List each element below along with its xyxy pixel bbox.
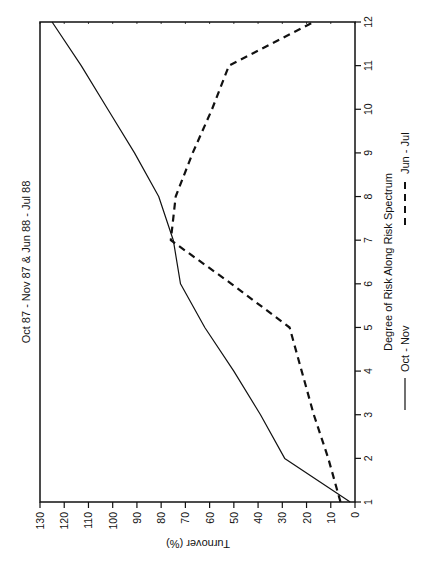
turnover-tick-label: 70	[179, 512, 191, 524]
turnover-tick-label: 50	[228, 512, 240, 524]
risk-tick-label: 4	[362, 368, 374, 374]
turnover-tick-label: 130	[34, 512, 46, 530]
risk-tick-label: 8	[362, 193, 374, 199]
turnover-tick-label: 80	[155, 512, 167, 524]
risk-axis-ticks: 123456789101112	[355, 16, 374, 505]
risk-tick-label: 2	[362, 455, 374, 461]
series-layer	[52, 22, 350, 502]
legend-label-jun-jul: Jun - Jul	[399, 132, 411, 174]
risk-tick-label: 7	[362, 237, 374, 243]
chart-canvas: 0102030405060708090100110120130 12345678…	[0, 0, 430, 563]
risk-tick-label: 10	[362, 103, 374, 115]
risk-tick-label: 3	[362, 412, 374, 418]
turnover-axis-ticks: 0102030405060708090100110120130	[34, 22, 361, 530]
turnover-tick-label: 60	[204, 512, 216, 524]
risk-tick-label: 9	[362, 150, 374, 156]
risk-tick-label: 5	[362, 324, 374, 330]
risk-tick-label: 11	[362, 60, 374, 71]
turnover-tick-label: 0	[349, 512, 361, 518]
risk-tick-label: 6	[362, 281, 374, 287]
chart-title: Oct 87 - Nov 87 & Jun 88 - Jul 88	[20, 181, 32, 344]
risk-axis-label: Degree of Risk Along Risk Spectrum	[382, 173, 394, 351]
turnover-tick-label: 100	[107, 512, 119, 530]
legend-label-oct-nov: Oct - Nov	[399, 325, 411, 372]
turnover-tick-label: 110	[82, 512, 94, 529]
turnover-tick-label: 20	[301, 512, 313, 524]
rotated-line-chart: 0102030405060708090100110120130 12345678…	[0, 0, 430, 563]
turnover-tick-label: 120	[58, 512, 70, 530]
turnover-tick-label: 10	[325, 512, 337, 524]
plot-area-frame	[40, 22, 355, 502]
legend: Oct - Nov Jun - Jul	[399, 132, 411, 410]
turnover-tick-label: 90	[131, 512, 143, 524]
risk-tick-label: 1	[362, 499, 374, 505]
risk-tick-label: 12	[362, 16, 374, 28]
series-jun-jul-line	[171, 22, 341, 502]
turnover-axis-label: Turnover (%)	[166, 538, 230, 550]
turnover-tick-label: 40	[252, 512, 264, 524]
turnover-tick-label: 30	[276, 512, 288, 524]
